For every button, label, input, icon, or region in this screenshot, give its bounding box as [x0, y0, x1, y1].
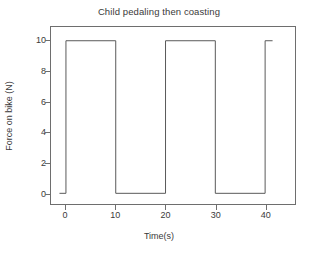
x-tick-label: 30 [201, 210, 231, 220]
y-tick-label: 6 [24, 97, 46, 107]
y-axis-label-container: Force on bike (N) [2, 26, 16, 205]
y-tick-mark [45, 194, 50, 195]
y-tick-mark [45, 132, 50, 133]
y-tick-label: 10 [24, 35, 46, 45]
x-tick-label: 10 [100, 210, 130, 220]
chart-title: Child pedaling then coasting [0, 6, 318, 17]
x-axis-label: Time(s) [0, 231, 318, 241]
y-tick-label: 8 [24, 66, 46, 76]
force-step-line [59, 41, 272, 194]
y-tick-label: 4 [24, 127, 46, 137]
y-axis-label: Force on bike (N) [4, 81, 14, 151]
y-tick-label: 2 [24, 158, 46, 168]
x-tick-label: 40 [251, 210, 281, 220]
y-tick-mark [45, 40, 50, 41]
y-tick-label: 0 [24, 189, 46, 199]
y-tick-mark [45, 163, 50, 164]
y-tick-mark [45, 71, 50, 72]
chart-figure: Child pedaling then coasting Force on bi… [0, 0, 318, 256]
data-series-svg [51, 27, 295, 204]
y-axis-tick-labels: 0246810 [18, 0, 46, 256]
y-tick-mark [45, 102, 50, 103]
plot-area [50, 26, 296, 205]
x-tick-label: 20 [150, 210, 180, 220]
x-tick-label: 0 [50, 210, 80, 220]
